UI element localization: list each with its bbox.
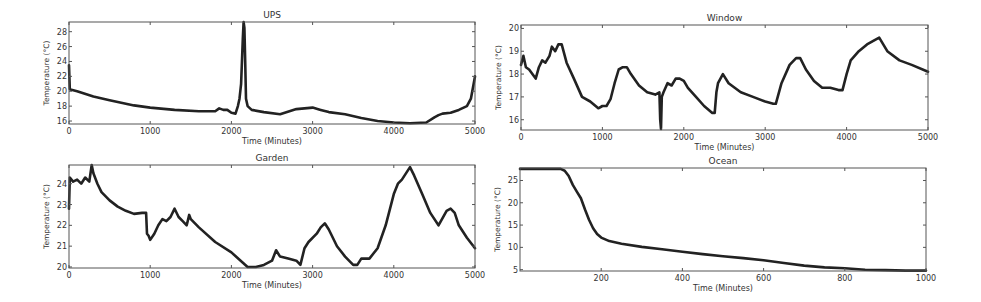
data-line: [521, 38, 928, 129]
x-tick-label: 4000: [384, 271, 404, 280]
x-tick-label: 5000: [465, 127, 485, 136]
plot-title: UPS: [263, 10, 281, 20]
y-tick-label: 5: [513, 266, 518, 275]
x-axis-label: Time (Minutes): [694, 143, 755, 152]
x-tick-label: 600: [756, 274, 771, 283]
x-tick-label: 0: [66, 127, 71, 136]
y-axis-label: Temperature (°C): [493, 187, 502, 253]
y-tick-label: 24: [57, 180, 67, 189]
y-tick-label: 16: [57, 117, 67, 126]
plot-title: Ocean: [709, 156, 738, 166]
x-tick-label: 5000: [465, 271, 485, 280]
y-tick-label: 20: [57, 87, 67, 96]
x-tick-label: 1000: [916, 274, 936, 283]
y-tick-label: 25: [508, 176, 518, 185]
y-tick-label: 17: [509, 93, 519, 102]
plot-title: Garden: [256, 153, 289, 163]
x-axis-label: Time (Minutes): [241, 281, 302, 290]
y-tick-label: 15: [508, 221, 518, 230]
x-tick-label: 0: [518, 133, 523, 142]
figure: UPS01000200030004000500016182022242628Ti…: [0, 0, 981, 302]
data-line: [69, 22, 475, 123]
axes-frame: [69, 165, 475, 268]
y-tick-label: 20: [509, 24, 519, 33]
x-axis-label: Time (Minutes): [241, 137, 302, 146]
y-tick-label: 10: [508, 243, 518, 252]
x-tick-label: 400: [675, 274, 690, 283]
x-tick-label: 1000: [140, 127, 160, 136]
subplot-window: Window0100020003000400050001617181920Tim…: [494, 13, 938, 152]
y-tick-label: 22: [57, 221, 67, 230]
y-tick-label: 26: [57, 43, 67, 52]
x-tick-label: 5000: [918, 133, 938, 142]
y-tick-label: 18: [509, 70, 519, 79]
x-axis-label: Time (Minutes): [692, 284, 753, 293]
x-tick-label: 800: [837, 274, 852, 283]
y-tick-label: 16: [509, 116, 519, 125]
x-tick-label: 1000: [592, 133, 612, 142]
y-axis-label: Temperature (°C): [42, 41, 51, 107]
y-axis-label: Temperature (°C): [42, 184, 51, 250]
data-line: [69, 165, 475, 267]
y-axis-label: Temperature (°C): [494, 45, 503, 111]
x-tick-label: 3000: [755, 133, 775, 142]
x-tick-label: 2000: [674, 133, 694, 142]
x-tick-label: 1000: [140, 271, 160, 280]
axes-frame: [69, 22, 475, 124]
y-tick-label: 20: [57, 263, 67, 272]
y-tick-label: 28: [57, 28, 67, 37]
y-tick-label: 23: [57, 201, 67, 210]
x-tick-label: 4000: [836, 133, 856, 142]
x-tick-label: 3000: [302, 127, 322, 136]
x-tick-label: 2000: [221, 127, 241, 136]
subplot-ocean: Ocean2004006008001000510152025Time (Minu…: [493, 156, 936, 293]
x-tick-label: 3000: [302, 271, 322, 280]
y-tick-label: 22: [57, 72, 67, 81]
y-tick-label: 20: [508, 199, 518, 208]
x-tick-label: 200: [594, 274, 609, 283]
y-tick-label: 24: [57, 57, 67, 66]
y-tick-label: 19: [509, 47, 519, 56]
subplot-garden: Garden0100020003000400050002021222324Tim…: [42, 153, 485, 290]
plot-title: Window: [707, 13, 743, 23]
data-line: [520, 169, 926, 271]
subplot-ups: UPS01000200030004000500016182022242628Ti…: [42, 10, 485, 146]
x-tick-label: 2000: [221, 271, 241, 280]
y-tick-label: 18: [57, 102, 67, 111]
x-tick-label: 0: [66, 271, 71, 280]
x-tick-label: 4000: [384, 127, 404, 136]
y-tick-label: 21: [57, 242, 67, 251]
